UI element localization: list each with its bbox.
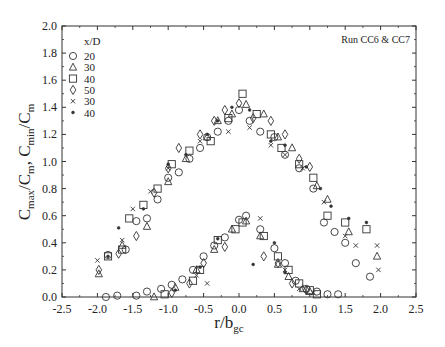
y-tick-label: 1.8	[42, 46, 57, 60]
data-point-circle	[331, 228, 338, 235]
y-axis-title: Cmax/Cm, Cmin/Cm	[15, 103, 36, 220]
data-point-circle	[281, 260, 288, 267]
legend-circle-icon	[69, 52, 76, 59]
data-point-diamond	[282, 130, 288, 139]
data-point-cross	[226, 129, 230, 133]
y-title-part: C	[15, 209, 34, 220]
data-point-diamond	[222, 242, 228, 251]
scatter-chart: -2.5-2.0-1.5-1.0-0.50.00.51.01.52.02.50.…	[0, 0, 445, 347]
data-point-diamond	[176, 143, 182, 152]
data-point-circle	[175, 169, 182, 176]
data-point-triangle	[373, 252, 380, 259]
data-point-cross	[269, 143, 273, 147]
data-point-circle	[143, 215, 150, 222]
data-point-cross	[131, 207, 135, 211]
data-point-square	[342, 219, 349, 226]
data-point-diamond	[268, 116, 274, 125]
data-point-circle	[179, 276, 186, 283]
data-point-circle	[143, 288, 150, 295]
y-tick-label: 1.0	[42, 155, 57, 169]
y-tick-label: 1.2	[42, 127, 57, 141]
data-point-triangle	[260, 110, 267, 117]
data-point-star	[216, 237, 219, 240]
data-point-circle	[242, 212, 249, 219]
x-tick-label: -1.0	[159, 302, 178, 316]
data-point-square	[324, 212, 331, 219]
data-point-square	[363, 226, 370, 233]
data-point-cross	[205, 281, 209, 285]
data-point-cross	[95, 258, 99, 262]
data-point-cross	[354, 243, 358, 247]
data-point-circle	[296, 165, 303, 172]
data-point-star	[107, 255, 110, 258]
x-axis-title: r/bgc	[214, 313, 243, 334]
y-tick-label: 0.0	[42, 290, 57, 304]
x-axis-title-sub: gc	[233, 322, 244, 334]
data-point-circle	[221, 234, 228, 241]
data-point-star	[142, 208, 145, 211]
data-point-circle	[154, 196, 161, 203]
data-point-circle	[133, 292, 140, 299]
y-title-part: /C	[15, 112, 34, 128]
data-point-triangle	[143, 222, 150, 229]
data-point-square	[253, 110, 260, 117]
data-point-circle	[320, 219, 327, 226]
data-point-star	[269, 140, 272, 143]
data-point-square	[126, 215, 133, 222]
legend-label: 30	[84, 61, 96, 73]
data-point-diamond	[197, 130, 203, 139]
data-point-square	[186, 147, 193, 154]
data-point-square	[310, 174, 317, 181]
legend-diamond-icon	[70, 85, 76, 94]
y-tick-label: 1.4	[42, 100, 57, 114]
data-point-triangle	[119, 241, 126, 248]
y-tick-label: 0.8	[42, 182, 57, 196]
data-point-triangle	[345, 228, 352, 235]
data-point-circle	[366, 273, 373, 280]
series-square	[104, 90, 370, 298]
data-point-cross	[258, 216, 262, 220]
x-tick-label: 2.0	[373, 302, 388, 316]
plot-frame	[62, 26, 416, 297]
x-tick-label: 1.0	[302, 302, 317, 316]
data-point-star	[273, 241, 276, 244]
data-point-circle	[257, 128, 264, 135]
legend-label: 30	[84, 95, 96, 107]
y-tick-label: 1.6	[42, 73, 57, 87]
series-cross	[95, 125, 380, 295]
y-tick-label: 2.0	[42, 19, 57, 33]
legend-label: 40	[84, 73, 96, 85]
data-point-cross	[247, 125, 251, 129]
data-point-cross	[376, 268, 380, 272]
data-point-circle	[196, 144, 203, 151]
y-title-part: , C	[15, 145, 34, 165]
data-point-star	[185, 153, 188, 156]
legend-label: 40	[84, 107, 96, 119]
legend-square-icon	[69, 75, 76, 82]
legend-label: 20	[84, 50, 96, 62]
data-point-circle	[352, 260, 359, 267]
data-point-square	[239, 90, 246, 97]
data-point-diamond	[296, 154, 302, 163]
data-point-star	[167, 163, 170, 166]
data-point-diamond	[134, 231, 140, 240]
data-point-diamond	[261, 252, 267, 261]
x-tick-label: -2.5	[53, 302, 72, 316]
y-tick-label: 0.2	[42, 263, 57, 277]
data-point-star	[284, 144, 287, 147]
run-annotation: Run CC6 & CC7	[341, 34, 410, 45]
data-point-star	[252, 263, 255, 266]
legend-title: x/D	[84, 35, 101, 47]
legend-label: 50	[84, 84, 96, 96]
x-tick-label: -1.5	[123, 302, 142, 316]
data-point-star	[330, 205, 333, 208]
data-point-star	[206, 133, 209, 136]
data-point-square	[154, 185, 161, 192]
data-point-star	[365, 221, 368, 224]
series-triangle	[95, 100, 380, 299]
series-star	[107, 106, 368, 292]
data-point-cross	[283, 153, 287, 157]
data-point-star	[284, 271, 287, 274]
y-title-sub: max	[24, 189, 36, 208]
data-point-circle	[133, 218, 140, 225]
